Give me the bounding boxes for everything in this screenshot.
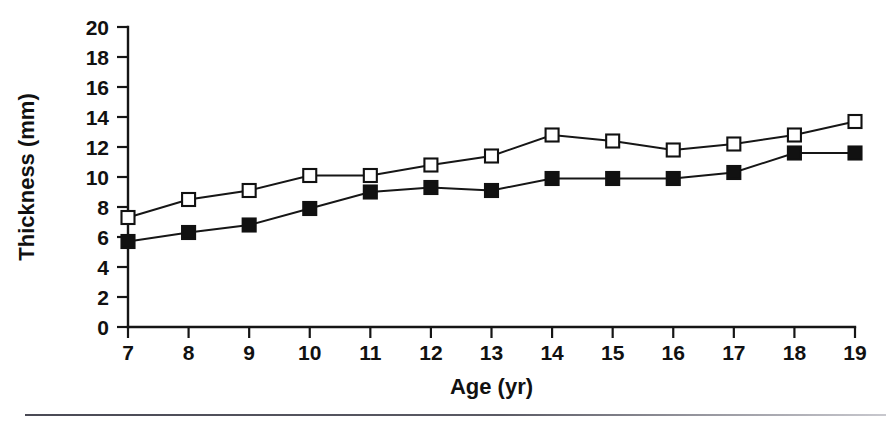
data-point-marker xyxy=(364,169,377,182)
y-axis-tick-label: 12 xyxy=(86,136,109,159)
data-point-marker xyxy=(727,138,740,151)
data-point-marker xyxy=(182,226,195,239)
y-axis-tick-label: 10 xyxy=(86,166,109,189)
data-point-marker xyxy=(303,169,316,182)
data-point-marker xyxy=(546,172,559,185)
y-axis-tick-label: 16 xyxy=(86,76,109,99)
data-point-marker xyxy=(546,129,559,142)
data-point-marker xyxy=(303,202,316,215)
y-axis-tick-label: 8 xyxy=(97,196,109,219)
x-axis-tick-label: 9 xyxy=(243,341,255,364)
y-axis-tick-label: 0 xyxy=(97,316,109,339)
x-axis-tick-label: 12 xyxy=(419,341,442,364)
x-axis-tick-label: 11 xyxy=(359,341,382,364)
data-point-marker xyxy=(122,211,135,224)
data-point-marker xyxy=(849,147,862,160)
data-point-marker xyxy=(667,144,680,157)
data-point-marker xyxy=(849,115,862,128)
figure-footer-rule xyxy=(25,414,886,416)
y-axis-title: Thickness (mm) xyxy=(14,93,39,261)
x-axis-tick-label: 16 xyxy=(662,341,685,364)
x-axis-tick-label: 17 xyxy=(722,341,745,364)
data-point-marker xyxy=(424,181,437,194)
data-point-marker xyxy=(485,184,498,197)
data-point-marker xyxy=(727,166,740,179)
x-axis-tick-label: 7 xyxy=(122,341,134,364)
x-axis-tick-label: 13 xyxy=(480,341,503,364)
y-axis-tick-label: 20 xyxy=(86,16,109,39)
x-axis-tick-label: 8 xyxy=(183,341,195,364)
x-axis-tick-label: 15 xyxy=(601,341,625,364)
data-point-marker xyxy=(243,184,256,197)
x-axis-tick-label: 18 xyxy=(783,341,807,364)
y-axis-tick-label: 14 xyxy=(86,106,110,129)
x-axis-tick-label: 14 xyxy=(540,341,564,364)
data-point-marker xyxy=(788,129,801,142)
y-axis-tick-label: 6 xyxy=(97,226,109,249)
data-point-marker xyxy=(243,219,256,232)
data-point-marker xyxy=(122,235,135,248)
data-point-marker xyxy=(182,193,195,206)
y-axis-tick-label: 18 xyxy=(86,46,110,69)
y-axis-tick-label: 2 xyxy=(97,286,109,309)
x-axis-tick-label: 19 xyxy=(843,341,866,364)
y-axis-tick-label: 4 xyxy=(97,256,109,279)
line-chart: 0246810121416182078910111213141516171819… xyxy=(0,0,896,429)
data-point-marker xyxy=(667,172,680,185)
data-point-marker xyxy=(364,186,377,199)
data-point-marker xyxy=(424,159,437,172)
x-axis-tick-label: 10 xyxy=(298,341,321,364)
x-axis-title: Age (yr) xyxy=(450,374,533,399)
data-point-marker xyxy=(606,135,619,148)
figure-container: 0246810121416182078910111213141516171819… xyxy=(0,0,896,429)
data-point-marker xyxy=(606,172,619,185)
data-point-marker xyxy=(788,147,801,160)
data-point-marker xyxy=(485,150,498,163)
